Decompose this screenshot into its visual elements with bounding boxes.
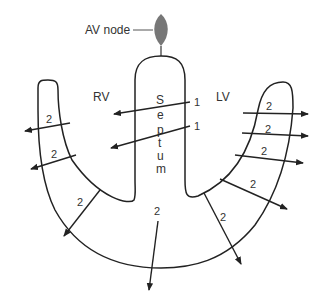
svg-text:m: m — [156, 162, 166, 176]
av-node: AV node — [85, 14, 168, 56]
wall-arrow-rv-lower-label: 2 — [77, 196, 83, 208]
av-node-label: AV node — [85, 23, 130, 37]
wall-arrow-apex — [149, 221, 158, 290]
svg-text:S: S — [156, 93, 164, 107]
septal-arrows — [111, 102, 190, 148]
wall-arrow-lv-middle-label: 2 — [261, 145, 267, 157]
septal-arrow-2-label: 1 — [194, 120, 200, 132]
wall-arrow-lv-lower-mid-label: 2 — [250, 178, 256, 190]
svg-text:e: e — [157, 108, 164, 122]
wall-arrows — [25, 113, 308, 290]
av-node-shape — [154, 14, 168, 46]
wall-arrow-lv-upper-label: 2 — [266, 100, 272, 112]
svg-text:u: u — [157, 149, 164, 163]
wall-arrow-lv-upper — [243, 113, 308, 114]
septal-arrow-1-label: 1 — [194, 96, 200, 108]
wall-arrow-rv-upper-label: 2 — [46, 113, 52, 125]
heart-conduction-diagram: AV node RV LV S e p t u m 1 1 — [0, 0, 324, 304]
svg-text:t: t — [158, 136, 162, 150]
lv-label: LV — [216, 90, 230, 104]
septal-arrow-1 — [114, 102, 190, 114]
wall-arrow-lv-middle — [235, 155, 303, 163]
wall-arrow-rv-middle-label: 2 — [51, 148, 57, 160]
rv-label: RV — [93, 90, 109, 104]
diagram-svg: AV node RV LV S e p t u m 1 1 — [0, 0, 324, 304]
wall-arrow-lv-lower-label: 2 — [220, 211, 226, 223]
septal-arrow-2 — [111, 126, 190, 148]
wall-arrow-lv-upper-mid-label: 2 — [265, 123, 271, 135]
wall-arrow-apex-label: 2 — [154, 205, 160, 217]
